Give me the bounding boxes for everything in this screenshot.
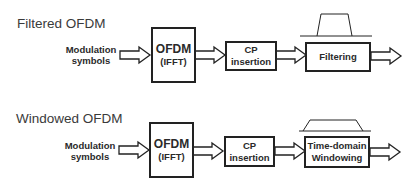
arrow-output-icon (371, 48, 401, 64)
filtering-block: Filtering (305, 42, 371, 72)
block-title: Time-domain (308, 140, 367, 152)
ofdm-ifft-block: OFDM (IFFT) (151, 27, 196, 83)
arrow-output-icon (370, 144, 400, 160)
block-subtitle: (IFFT) (158, 151, 184, 163)
diagram-title-windowed-ofdm: Windowed OFDM (16, 111, 123, 126)
input-label-line1: Modulation (63, 140, 117, 151)
block-subtitle: insertion (231, 56, 271, 68)
block-subtitle: (IFFT) (160, 56, 186, 68)
block-title: CP (243, 140, 256, 152)
block-subtitle: Windowing (312, 152, 363, 164)
input-label-line2: symbols (64, 55, 118, 66)
input-label: Modulation symbols (64, 44, 118, 66)
cp-insertion-block: CP insertion (224, 136, 275, 167)
cp-insertion-block: CP insertion (225, 41, 277, 71)
arrow-cp-to-window-icon (275, 143, 305, 159)
arrow-ofdm-to-cp-icon (193, 143, 223, 159)
block-title: OFDM (156, 42, 191, 56)
block-title: Filtering (319, 51, 356, 63)
diagram-title-filtered-ofdm: Filtered OFDM (17, 16, 106, 31)
ofdm-ifft-block: OFDM (IFFT) (149, 122, 194, 178)
arrow-cp-to-filter-icon (276, 47, 306, 63)
window-shape-icon (299, 120, 371, 131)
block-subtitle: insertion (229, 152, 269, 164)
arrow-ofdm-to-cp-icon (195, 47, 225, 63)
input-label: Modulation symbols (63, 140, 117, 162)
input-label-line1: Modulation (64, 44, 118, 55)
block-title: CP (244, 44, 257, 56)
filter-shape-icon (300, 14, 372, 36)
arrow-input-icon (120, 47, 150, 63)
input-label-line2: symbols (63, 151, 117, 162)
time-domain-windowing-block: Time-domain Windowing (304, 136, 370, 168)
arrow-input-icon (119, 142, 149, 158)
block-title: OFDM (154, 137, 189, 151)
